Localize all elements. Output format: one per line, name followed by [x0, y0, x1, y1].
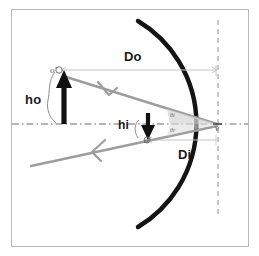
- object-distance-label: Do: [124, 50, 142, 63]
- object-height-label: ho: [25, 93, 41, 106]
- object-height-brace: [47, 72, 56, 123]
- image-distance-label: Di: [178, 148, 191, 161]
- angle-of-reflection-label: θr: [170, 127, 175, 133]
- diagram-canvas: [0, 0, 259, 256]
- ray-diagram-figure: Do Di ho hi oʹ oʹ v θi θr: [0, 0, 259, 256]
- object-point-label: oʹ: [50, 66, 56, 75]
- image-height-brace: [135, 120, 139, 138]
- angle-of-incidence-label: θi: [170, 112, 175, 118]
- image-height-label: hi: [118, 119, 129, 131]
- image-point-label: oʹ: [144, 136, 150, 145]
- vertex-label: v: [215, 124, 219, 133]
